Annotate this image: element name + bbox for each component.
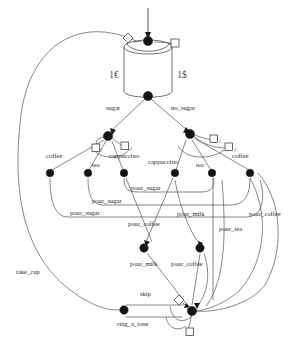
node-capp-l[interactable]: [120, 169, 128, 177]
node-dispatch[interactable]: [143, 91, 152, 100]
glyph-right-sq-2[interactable]: [225, 143, 233, 151]
subscript-right-2: 2: [234, 147, 236, 152]
entry-input-arc: [145, 8, 151, 39]
cylinder-right-label: 1$: [177, 70, 187, 80]
edge-capp-right: [176, 140, 186, 170]
edge-label-pour-coffee-1: pour_coffee: [128, 220, 160, 227]
edge-label-layer: sugar no_sugar coffee tea cappuccino cap…: [16, 104, 281, 327]
edge-label-pour-milk-1: pour_milk: [177, 210, 205, 217]
glyph-left-sq-2[interactable]: [121, 142, 129, 150]
edge-label-pour-sugar-3: pour_sugar: [70, 209, 100, 216]
edge-label-pour-tea-1: pour_tea: [219, 225, 242, 232]
glyph-left-sq-1[interactable]: [92, 144, 100, 152]
node-tea-l[interactable]: [84, 169, 92, 177]
glyph-top-square[interactable]: [171, 39, 179, 47]
edge-coffee-mid-vertical: [206, 180, 224, 306]
edge-label-pour-coffee-2: pour_coffee: [249, 210, 281, 217]
subscript-left-2: 2: [130, 146, 132, 151]
glyph-top-diamond[interactable]: [123, 33, 133, 43]
center-crossing-edges: [126, 178, 224, 306]
edge-label-tea-left: tea: [92, 161, 100, 168]
node-final[interactable]: [187, 306, 196, 315]
edge-label-coffee-left: coffee: [46, 152, 62, 159]
edge-label-cappuccino-r: cappuccino: [148, 158, 179, 165]
node-entry[interactable]: [143, 36, 152, 45]
glyph-right-sq-1[interactable]: [210, 135, 218, 143]
glyph-bot-diamond[interactable]: [174, 295, 184, 305]
node-sugar[interactable]: [103, 131, 112, 140]
node-coffee-r[interactable]: [246, 169, 254, 177]
edge-label-ring-a-tone: ring_a_tone: [117, 320, 149, 327]
edge-label-tea-right: tea: [196, 161, 204, 168]
cylinder-left-label: 1€: [109, 70, 119, 80]
node-no-sugar[interactable]: [185, 129, 194, 138]
node-coffee-l[interactable]: [46, 169, 54, 177]
edge-label-pour-sugar-2: pour_sugar: [92, 197, 122, 204]
node-tea-r[interactable]: [208, 169, 216, 177]
arc-right-outer: [196, 173, 278, 311]
edge-label-skip: skip: [140, 290, 152, 297]
subscript-right-1: 1: [219, 139, 221, 144]
edge-label-pour-milk-2: pour_milk: [130, 260, 158, 267]
edge-label-coffee-right: coffee: [232, 152, 248, 159]
edge-label-sugar: sugar: [106, 104, 121, 111]
edge-label-take-cup: take_cup: [16, 268, 41, 275]
arc-right-outer-2: [196, 178, 262, 311]
node-coffee-mid[interactable]: [196, 244, 204, 252]
edge-label-pour-coffee-3: pour_coffee: [171, 260, 203, 267]
node-capp-r[interactable]: [171, 169, 179, 177]
node-layer: [46, 36, 254, 315]
node-milk[interactable]: [140, 244, 148, 252]
edge-label-pour-sugar-1: pour_sugar: [131, 184, 161, 191]
diagram-canvas: 1€ 1$: [0, 0, 304, 348]
glyph-bot-square[interactable]: [186, 328, 194, 336]
edge-label-no-sugar: no_sugar: [171, 104, 196, 111]
coin-place-cylinder: 1€ 1$: [109, 40, 187, 97]
node-cup-left[interactable]: [120, 306, 128, 314]
subscript-left-1: 1: [100, 148, 102, 153]
outer-feedback-arcs: [18, 32, 278, 312]
edge-label-cappuccino-l: cappuccino: [109, 152, 140, 159]
arc-square-to-entry: [154, 42, 171, 43]
